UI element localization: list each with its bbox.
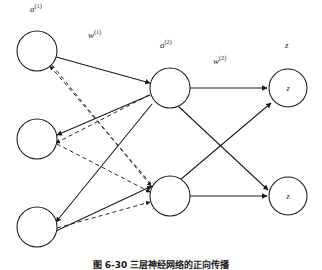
weight-label-w2-superscript: (2) xyxy=(219,54,226,61)
node-group-output: z z xyxy=(269,69,307,215)
layer-label-z: z xyxy=(285,41,289,50)
edge-input1-hidden1 xyxy=(56,57,150,83)
edge-dashed-input2-hidden1 xyxy=(56,94,151,143)
input-node-1[interactable] xyxy=(17,31,57,71)
node-group-hidden xyxy=(150,68,190,216)
edge-input3-hidden2 xyxy=(56,186,152,231)
edge-dashed-input1-hidden2 xyxy=(52,65,151,186)
hidden-node-2[interactable] xyxy=(150,176,190,216)
edge-group-dashed xyxy=(50,65,152,228)
weight-label-w1-superscript: (1) xyxy=(94,28,101,35)
weight-label-w2: w(2) xyxy=(213,57,226,66)
hidden-node-1[interactable] xyxy=(150,68,190,108)
layer-label-z-base: z xyxy=(285,40,289,50)
input-node-2[interactable] xyxy=(17,119,57,159)
layer-label-a1-superscript: (1) xyxy=(35,2,42,9)
layer-label-a2-superscript: (2) xyxy=(165,38,172,45)
neural-network-figure: z z a(1) a(2) z w(1) w(2) 图 6-30 三层神经网络的… xyxy=(0,0,322,270)
input-node-3[interactable] xyxy=(17,207,57,247)
edge-dashed-input3-hidden2b xyxy=(57,202,150,228)
node-group-input xyxy=(17,31,57,247)
caption-clip-region: 图 6-30 三层神经网络的正向传播 xyxy=(0,258,322,270)
layer-label-a1: a(1) xyxy=(30,5,42,14)
edge-hidden1-hidden2-cross xyxy=(178,106,268,190)
weight-label-w1: w(1) xyxy=(88,31,101,40)
edge-input3-hidden1 xyxy=(56,104,152,222)
edge-hidden2-output1 xyxy=(180,103,271,180)
layer-label-a2: a(2) xyxy=(160,41,172,50)
figure-caption: 图 6-30 三层神经网络的正向传播 xyxy=(0,258,322,270)
